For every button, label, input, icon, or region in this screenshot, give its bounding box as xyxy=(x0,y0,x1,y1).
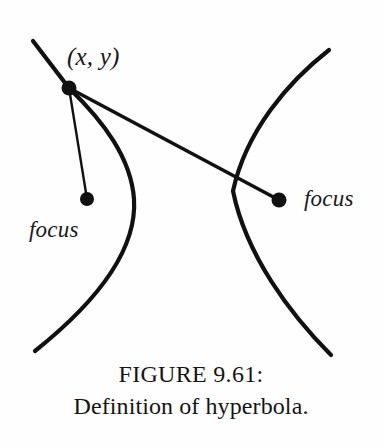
focus-right-label: focus xyxy=(304,187,354,210)
focus-left-dot xyxy=(80,192,94,206)
point-xy-label: (x, y) xyxy=(67,44,120,69)
figure-caption: FIGURE 9.61: Definition of hyperbola. xyxy=(0,358,382,422)
point-xy-dot xyxy=(62,81,77,96)
figure-container: (x, y) focus focus FIGURE 9.61: Definiti… xyxy=(0,0,382,446)
figure-caption-number: FIGURE 9.61: xyxy=(0,358,382,390)
figure-caption-text: Definition of hyperbola. xyxy=(0,390,382,422)
focus-right-dot xyxy=(272,193,287,208)
focus-left-label: focus xyxy=(29,218,79,241)
